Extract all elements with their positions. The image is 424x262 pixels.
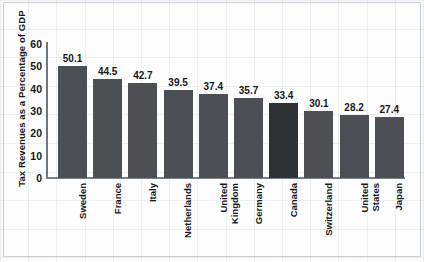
x-tick-label: France [113,183,124,262]
x-tick-label: Germany [254,183,265,262]
bar-sweden[interactable] [58,66,87,178]
bar-canada[interactable] [269,103,298,178]
y-tick-label: 30 [14,105,42,117]
y-tick-label: 40 [14,83,42,95]
x-tick-label: Netherlands [183,183,194,262]
x-tick-label: Japan [394,183,405,262]
bar-netherlands[interactable] [164,90,193,178]
bar-value-label: 50.1 [50,53,96,64]
x-tick-label: Canada [289,183,300,262]
bar-france[interactable] [93,79,122,178]
y-tick-label: 60 [14,38,42,50]
y-tick-label: 10 [14,150,42,162]
bar-germany[interactable] [234,98,263,178]
bar-value-label: 27.4 [366,104,412,115]
bar-switzerland[interactable] [304,111,333,178]
x-tick-label: Italy [148,183,159,262]
x-tick-label: Sweden [78,183,89,262]
bar-united-kingdom[interactable] [199,94,228,178]
bar-italy[interactable] [128,83,157,178]
x-tick-label: United States [360,183,381,262]
y-tick-label: 0 [14,172,42,184]
chart-page: Tax Revenues as a Percentage of GDP 6050… [0,0,424,262]
bar-united-states[interactable] [340,115,369,178]
y-tick-label: 20 [14,127,42,139]
bar-japan[interactable] [375,117,404,178]
x-tick-label: United Kingdom [219,183,240,262]
x-tick-label: Switzerland [324,183,335,262]
y-tick-label: 50 [14,60,42,72]
